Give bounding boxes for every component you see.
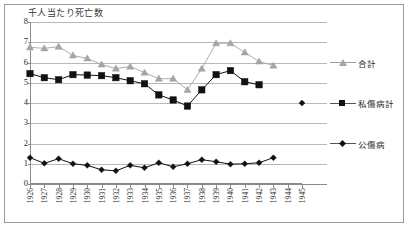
data-point bbox=[113, 74, 119, 80]
legend-item[interactable]: 私傷病計 bbox=[330, 97, 394, 109]
legend-marker-triangle-icon bbox=[339, 59, 347, 66]
x-tick-mark bbox=[230, 185, 231, 188]
data-point bbox=[41, 160, 47, 166]
data-point bbox=[84, 162, 90, 168]
legend-item[interactable]: 合計 bbox=[330, 57, 376, 69]
y-axis-label: 5 bbox=[8, 77, 28, 87]
x-axis-label: 1937 bbox=[183, 188, 192, 203]
data-point bbox=[99, 167, 105, 173]
x-tick-mark bbox=[145, 185, 146, 188]
data-point bbox=[98, 72, 104, 78]
x-axis-label: 1932 bbox=[112, 188, 121, 203]
data-point bbox=[141, 81, 147, 87]
data-point bbox=[84, 72, 90, 78]
x-axis-label: 1942 bbox=[255, 188, 264, 203]
x-tick-mark bbox=[245, 185, 246, 188]
legend-swatch bbox=[330, 97, 356, 109]
data-point bbox=[199, 157, 205, 163]
legend-swatch bbox=[330, 138, 356, 150]
data-point bbox=[127, 78, 133, 84]
x-tick-mark bbox=[73, 185, 74, 188]
x-tick-mark bbox=[187, 185, 188, 188]
data-point bbox=[184, 86, 191, 92]
y-axis-label: 8 bbox=[8, 16, 28, 26]
data-point bbox=[55, 43, 62, 49]
y-axis-label: 0 bbox=[8, 178, 28, 188]
legend-label: 公傷病 bbox=[358, 138, 385, 150]
data-point bbox=[41, 74, 47, 80]
data-point bbox=[242, 79, 248, 85]
data-point bbox=[69, 52, 76, 58]
legend-marker-square-icon bbox=[339, 100, 345, 106]
data-point bbox=[98, 61, 105, 67]
y-axis-label: 6 bbox=[8, 57, 28, 67]
x-axis-label: 1927 bbox=[40, 188, 49, 203]
data-point bbox=[213, 159, 219, 165]
y-axis-label: 4 bbox=[8, 97, 28, 107]
series-triangle bbox=[26, 40, 277, 93]
x-axis-label: 1941 bbox=[241, 188, 250, 203]
data-point bbox=[170, 75, 177, 81]
data-point bbox=[184, 103, 190, 109]
data-point bbox=[70, 71, 76, 77]
legend-label: 合計 bbox=[358, 57, 376, 69]
y-axis-label: 3 bbox=[8, 117, 28, 127]
chart-title: 千人当たり死亡数 bbox=[28, 6, 103, 19]
x-axis-ticks: 1926192719281929193019311932193319341935… bbox=[30, 186, 330, 226]
legend-item[interactable]: 公傷病 bbox=[330, 138, 385, 150]
x-tick-mark bbox=[288, 185, 289, 188]
data-point bbox=[141, 69, 148, 75]
y-axis-label: 7 bbox=[8, 36, 28, 46]
x-axis-label: 1929 bbox=[69, 188, 78, 203]
data-point bbox=[113, 168, 119, 174]
data-point bbox=[27, 70, 33, 76]
x-tick-mark bbox=[59, 185, 60, 188]
data-point bbox=[299, 100, 305, 106]
data-point bbox=[227, 161, 233, 167]
x-axis-label: 1940 bbox=[226, 188, 235, 203]
x-tick-mark bbox=[173, 185, 174, 188]
y-axis-label: 2 bbox=[8, 138, 28, 148]
data-point bbox=[55, 77, 61, 83]
data-point bbox=[241, 49, 248, 55]
x-axis-label: 1931 bbox=[98, 188, 107, 203]
chart-legend: 合計私傷病計公傷病 bbox=[330, 22, 406, 184]
x-axis-label: 1930 bbox=[83, 188, 92, 203]
x-axis-label: 1939 bbox=[212, 188, 221, 203]
x-tick-mark bbox=[216, 185, 217, 188]
data-point bbox=[142, 165, 148, 171]
legend-marker-diamond-icon bbox=[339, 140, 346, 147]
x-tick-mark bbox=[273, 185, 274, 188]
legend-swatch bbox=[330, 57, 356, 69]
x-tick-mark bbox=[259, 185, 260, 188]
x-axis-label: 1938 bbox=[198, 188, 207, 203]
data-point bbox=[156, 160, 162, 166]
x-tick-mark bbox=[202, 185, 203, 188]
x-axis-label: 1933 bbox=[126, 188, 135, 203]
data-point bbox=[170, 164, 176, 170]
data-point bbox=[127, 162, 133, 168]
x-tick-mark bbox=[302, 185, 303, 188]
data-point bbox=[242, 161, 248, 167]
data-point bbox=[199, 87, 205, 93]
data-point bbox=[70, 161, 76, 167]
series-layer bbox=[30, 22, 330, 185]
data-point bbox=[156, 92, 162, 98]
x-tick-mark bbox=[87, 185, 88, 188]
data-point bbox=[198, 65, 205, 71]
y-axis-ticks: 012345678 bbox=[4, 22, 28, 184]
data-point bbox=[56, 156, 62, 162]
series-diamond bbox=[27, 100, 305, 174]
data-point bbox=[184, 161, 190, 167]
x-axis-label: 1928 bbox=[55, 188, 64, 203]
chart-figure: 千人当たり死亡数 012345678 192619271928192919301… bbox=[0, 0, 409, 228]
data-point bbox=[256, 82, 262, 88]
x-tick-mark bbox=[30, 185, 31, 188]
data-point bbox=[256, 160, 262, 166]
x-tick-mark bbox=[116, 185, 117, 188]
x-axis-label: 1943 bbox=[269, 188, 278, 203]
data-point bbox=[255, 58, 262, 64]
y-axis-label: 1 bbox=[8, 158, 28, 168]
data-point bbox=[170, 97, 176, 103]
data-point bbox=[227, 40, 234, 46]
